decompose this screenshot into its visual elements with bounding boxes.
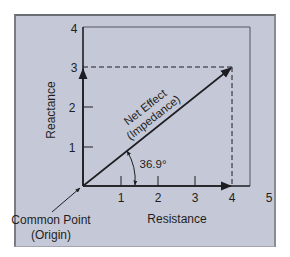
x-axis-title: Resistance xyxy=(147,212,207,226)
x-tick-2: 2 xyxy=(155,191,162,205)
y-tick-3: 3 xyxy=(71,61,78,75)
angle-label: 36.9° xyxy=(140,158,167,170)
origin-label-line2: (Origin) xyxy=(31,228,71,242)
x-tick-4: 4 xyxy=(229,191,236,205)
y-tick-4: 4 xyxy=(71,22,78,36)
y-tick-1: 1 xyxy=(69,141,76,155)
x-tick-5: 5 xyxy=(266,191,273,205)
origin-label-line1: Common Point xyxy=(11,213,91,227)
x-axis xyxy=(83,176,250,186)
y-axis-title: Reactance xyxy=(44,81,58,139)
y-axis xyxy=(83,27,93,186)
impedance-diagram: 4 3 2 1 1 2 3 4 5 Reactance Resistance N… xyxy=(0,0,290,257)
x-tick-3: 3 xyxy=(192,191,199,205)
angle-arc xyxy=(127,151,135,185)
x-tick-1: 1 xyxy=(118,191,125,205)
origin-pointer xyxy=(52,188,80,212)
y-tick-2: 2 xyxy=(69,101,76,115)
